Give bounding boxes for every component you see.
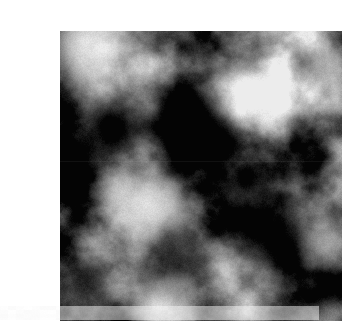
fractal-noise-texture bbox=[60, 31, 342, 321]
speckle-raster bbox=[0, 306, 319, 320]
noise-raster bbox=[60, 31, 342, 321]
bottom-margin-compression-speckle bbox=[0, 306, 319, 320]
